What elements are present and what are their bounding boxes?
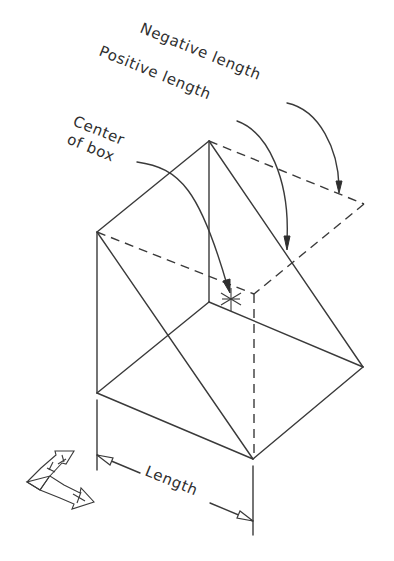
edge-top-to-right-diagonal [209, 141, 363, 367]
leader-positive-length [237, 121, 290, 250]
ucs-icon [27, 451, 94, 509]
dashed-right-front [254, 204, 364, 294]
dimension-arrow-right-icon [237, 511, 253, 521]
dashed-top-right [209, 141, 364, 204]
edge-inner-left [97, 302, 209, 393]
isometric-box-diagram: Negative length Positive length Center o… [0, 0, 394, 561]
leader-negative-length [287, 103, 342, 193]
center-marker-icon [221, 288, 241, 311]
edge-inner-right [209, 302, 363, 367]
label-length: Length [143, 462, 201, 499]
dimension-length: Length [97, 400, 253, 535]
edge-left-diagonal [97, 232, 253, 459]
ucs-y-mark [47, 468, 55, 472]
dimension-arrow-left-icon [97, 455, 113, 465]
leader-center-of-box [137, 162, 230, 293]
edge-bottom-right [253, 367, 363, 459]
